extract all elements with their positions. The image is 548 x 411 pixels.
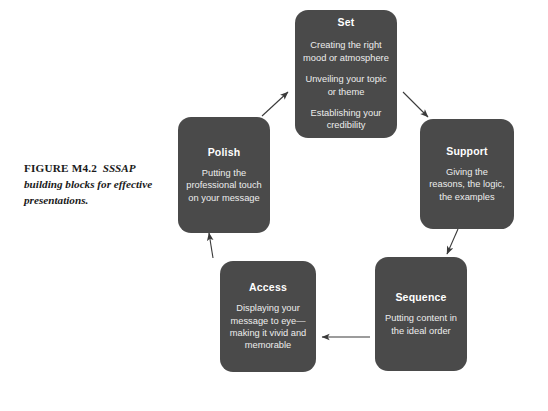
node-polish-line-1: Putting the professional touch on your m…	[186, 167, 262, 204]
node-support-line-1: Giving the reasons, the logic, the examp…	[428, 166, 506, 203]
node-polish[interactable]: Polish Putting the professional touch on…	[178, 117, 270, 233]
arrow-set-to-support	[403, 92, 428, 117]
arrow-support-to-sequence	[447, 229, 458, 254]
node-sequence-line-1: Putting content in the ideal order	[383, 312, 459, 337]
node-set-line-2: Unveiling your topic or theme	[303, 73, 389, 98]
node-access-line-1: Displaying your message to eye—making it…	[228, 302, 308, 352]
arrow-polish-to-set	[262, 92, 288, 116]
node-polish-title: Polish	[208, 146, 241, 158]
sssap-cycle-diagram: Set Creating the right mood or atmospher…	[0, 0, 548, 411]
node-support[interactable]: Support Giving the reasons, the logic, t…	[420, 119, 514, 229]
node-set-title: Set	[338, 16, 355, 28]
node-access[interactable]: Access Displaying your message to eye—ma…	[220, 261, 316, 372]
node-set-line-3: Establishing your credibility	[303, 107, 389, 132]
node-set-line-1: Creating the right mood or atmosphere	[303, 39, 389, 64]
node-access-title: Access	[249, 281, 287, 293]
node-support-title: Support	[446, 145, 488, 157]
arrow-access-to-polish	[209, 233, 213, 258]
figure-page: FIGURE M4.2 SSSAP building blocks for ef…	[0, 0, 548, 411]
node-sequence[interactable]: Sequence Putting content in the ideal or…	[375, 257, 467, 371]
node-set[interactable]: Set Creating the right mood or atmospher…	[295, 10, 397, 138]
node-sequence-title: Sequence	[395, 291, 446, 303]
